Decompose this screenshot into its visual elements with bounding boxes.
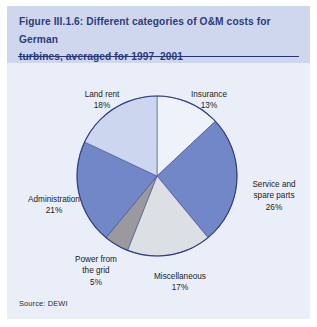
figure-root: Figure III.1.6: Different categories of … (0, 0, 317, 327)
slice-label-miscellaneous: Miscellaneous 17% (138, 271, 222, 294)
slice-label-power-grid-pct: 5% (60, 277, 132, 288)
slice-label-insurance-name: Insurance (191, 90, 227, 99)
slice-label-service-pct: 26% (235, 202, 310, 213)
slice-label-land-rent-pct: 18% (67, 100, 137, 111)
page-title: Figure III.1.6: Different categories of … (19, 13, 298, 66)
pie-chart: Land rent 18% Insurance 13% Service and … (7, 63, 310, 319)
slice-label-service-name-line-2: spare parts (254, 191, 295, 200)
slice-label-insurance-pct: 13% (175, 100, 243, 111)
slice-label-power-from-the-grid: Power from the grid 5% (60, 254, 132, 288)
slice-label-power-grid-name-line-2: the grid (82, 266, 109, 275)
figure-title-line-1: Figure III.1.6: Different categories of … (19, 16, 271, 45)
slice-label-service-name-line-1: Service and (252, 180, 295, 189)
figure-panel: Figure III.1.6: Different categories of … (7, 6, 310, 319)
source-note: Source: DEWI (19, 299, 68, 308)
slice-label-land-rent-name: Land rent (85, 90, 120, 99)
slice-label-service-and-spare-parts: Service and spare parts 26% (235, 179, 310, 213)
slice-label-insurance: Insurance 13% (175, 89, 243, 112)
slice-label-power-grid-name-line-1: Power from (75, 255, 117, 264)
figure-header: Figure III.1.6: Different categories of … (7, 6, 310, 63)
slice-label-land-rent: Land rent 18% (67, 89, 137, 112)
slice-label-administration-pct: 21% (13, 205, 95, 216)
slice-label-miscellaneous-pct: 17% (138, 282, 222, 293)
slice-label-administration-name: Administration (28, 195, 80, 204)
slice-label-miscellaneous-name: Miscellaneous (154, 272, 206, 281)
title-rule (18, 56, 299, 57)
slice-label-administration: Administration 21% (13, 194, 95, 217)
